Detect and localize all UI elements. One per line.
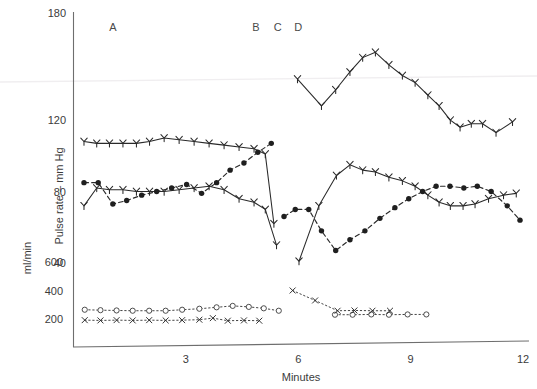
axes bbox=[73, 12, 529, 347]
series-line-1-seg-1 bbox=[299, 165, 516, 261]
series-2-point-1-17 bbox=[517, 217, 522, 222]
series-2-point-1-11 bbox=[433, 184, 438, 189]
series-4-point-1-1 bbox=[312, 298, 317, 303]
y-tick-secondary-200: 200 bbox=[45, 313, 63, 325]
series-1-point-0-13 bbox=[262, 206, 268, 213]
y-tick-secondary-600: 600 bbox=[45, 256, 63, 268]
event-label-D: D bbox=[294, 21, 302, 33]
series-0-point-1-15 bbox=[493, 129, 499, 136]
series-2-point-0-3 bbox=[124, 198, 129, 203]
y-axis-title-secondary: ml/min bbox=[21, 242, 33, 274]
series-4-point-1-0 bbox=[290, 288, 295, 293]
physiology-chart: 36912 4080120180 200400600 ABCD Minutes … bbox=[0, 0, 537, 389]
y-tick-secondary-400: 400 bbox=[45, 285, 63, 297]
series-2-point-1-3 bbox=[319, 228, 324, 233]
scan-artifact-line bbox=[0, 76, 537, 82]
series-3-point-0-7 bbox=[197, 306, 202, 311]
series-0-point-1-6 bbox=[386, 61, 392, 68]
series-2-point-1-8 bbox=[392, 205, 397, 210]
series-2-point-1-13 bbox=[461, 185, 466, 190]
series-4-point-1-2 bbox=[335, 308, 340, 313]
x-tick-9: 9 bbox=[408, 353, 414, 365]
series-0-point-0-13 bbox=[262, 151, 268, 158]
series-1-point-1-3 bbox=[347, 161, 353, 168]
data-marker-layer bbox=[81, 49, 523, 324]
series-3-point-0-5 bbox=[163, 308, 168, 313]
series-1-point-1-1 bbox=[316, 202, 322, 209]
series-2-point-1-4 bbox=[333, 248, 338, 253]
series-4-point-0-6 bbox=[179, 317, 184, 322]
series-2-point-1-2 bbox=[306, 207, 311, 212]
series-line-2-seg-0 bbox=[84, 143, 271, 204]
series-2-point-0-6 bbox=[169, 185, 174, 190]
series-2-point-0-1 bbox=[96, 180, 101, 185]
x-tick-3: 3 bbox=[183, 353, 189, 365]
event-annotations: ABCD bbox=[109, 21, 302, 33]
series-2-point-0-4 bbox=[139, 192, 144, 197]
x-tick-labels: 36912 bbox=[183, 353, 529, 365]
series-0-point-1-1 bbox=[318, 102, 324, 109]
x-tick-6: 6 bbox=[295, 353, 301, 365]
series-line-2-seg-1 bbox=[284, 186, 520, 250]
series-1-point-1-10 bbox=[436, 199, 442, 206]
series-2-point-1-10 bbox=[420, 189, 425, 194]
series-2-point-1-5 bbox=[347, 237, 352, 242]
series-1-point-1-0 bbox=[296, 258, 302, 265]
series-2-point-0-8 bbox=[199, 191, 204, 196]
y-tick-primary-120: 120 bbox=[48, 114, 66, 126]
series-3-point-0-12 bbox=[276, 308, 281, 313]
series-line-1-seg-0 bbox=[84, 186, 277, 245]
x-axis-line bbox=[73, 341, 529, 347]
series-3-point-1-5 bbox=[424, 312, 429, 317]
series-4-point-0-5 bbox=[163, 318, 168, 323]
x-axis-title: Minutes bbox=[282, 371, 321, 383]
series-3-point-0-0 bbox=[82, 307, 87, 312]
series-0-point-1-11 bbox=[447, 117, 453, 124]
series-1-point-1-7 bbox=[399, 177, 405, 184]
series-2-point-1-6 bbox=[362, 228, 367, 233]
event-label-B: B bbox=[252, 21, 259, 33]
series-2-point-0-11 bbox=[241, 160, 246, 165]
series-2-point-0-12 bbox=[255, 150, 260, 155]
series-3-point-0-9 bbox=[230, 303, 235, 308]
series-1-point-0-12 bbox=[251, 199, 257, 206]
series-line-4-seg-0 bbox=[85, 318, 260, 321]
series-2-point-0-0 bbox=[81, 180, 86, 185]
y-axis-title-primary: Pulse rate – mm Hg bbox=[53, 147, 65, 244]
series-2-point-0-9 bbox=[214, 180, 219, 185]
series-1-point-0-0 bbox=[81, 202, 87, 209]
series-1-point-1-9 bbox=[425, 192, 431, 199]
series-2-point-0-13 bbox=[269, 141, 274, 146]
series-3-point-0-11 bbox=[261, 306, 266, 311]
series-3-point-0-1 bbox=[98, 308, 103, 313]
data-series-layer bbox=[84, 52, 520, 320]
series-2-point-1-7 bbox=[377, 216, 382, 221]
series-3-point-0-3 bbox=[130, 308, 135, 313]
series-4-point-0-0 bbox=[82, 317, 87, 322]
series-2-point-0-2 bbox=[110, 201, 115, 206]
series-2-point-1-15 bbox=[488, 189, 493, 194]
series-1-point-1-2 bbox=[333, 172, 339, 179]
series-1-point-1-14 bbox=[485, 195, 491, 202]
series-3-point-0-6 bbox=[180, 307, 185, 312]
series-2-point-1-16 bbox=[505, 203, 510, 208]
series-3-point-0-4 bbox=[147, 308, 152, 313]
event-label-A: A bbox=[109, 21, 117, 33]
y-tick-primary-180: 180 bbox=[48, 7, 66, 19]
series-2-point-1-9 bbox=[406, 196, 411, 201]
x-tick-12: 12 bbox=[517, 353, 529, 365]
event-label-C: C bbox=[274, 21, 282, 33]
series-1-point-0-14 bbox=[273, 242, 279, 249]
series-2-point-1-12 bbox=[447, 184, 452, 189]
series-2-point-1-14 bbox=[475, 184, 480, 189]
series-3-point-0-2 bbox=[114, 308, 119, 313]
series-0-point-1-12 bbox=[457, 124, 463, 131]
series-1-point-0-10 bbox=[221, 186, 227, 193]
series-3-point-0-10 bbox=[246, 304, 251, 309]
series-4-point-0-4 bbox=[146, 317, 151, 322]
series-1-point-1-8 bbox=[412, 183, 418, 190]
y-tick-labels-secondary: 200400600 bbox=[45, 256, 63, 325]
series-2-point-0-10 bbox=[227, 167, 232, 172]
series-3-point-1-4 bbox=[405, 312, 410, 317]
series-2-point-1-1 bbox=[293, 207, 298, 212]
